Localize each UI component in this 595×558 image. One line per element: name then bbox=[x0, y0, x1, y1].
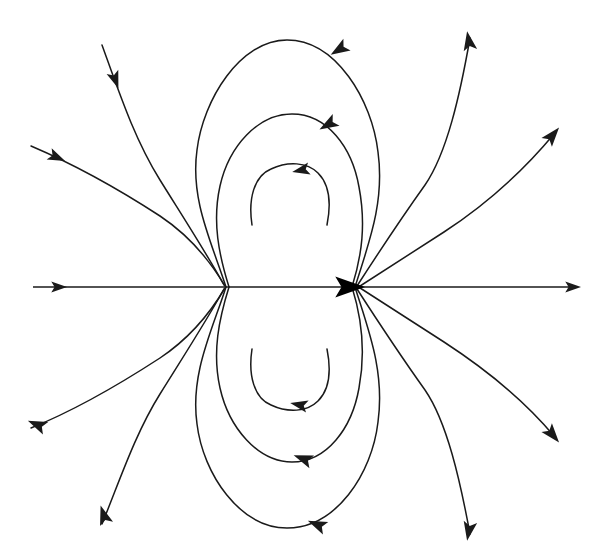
figure-background bbox=[0, 0, 595, 558]
dipole-field-figure: Electric dipole field lines bbox=[0, 0, 595, 558]
field-line-canvas: Electric dipole field lines bbox=[0, 0, 595, 558]
